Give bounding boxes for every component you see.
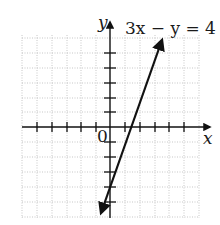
- x-axis-label: x: [203, 128, 213, 148]
- x-axis: [22, 122, 210, 132]
- equation-label: 3x − y = 4: [125, 18, 216, 38]
- origin-label: 0: [97, 126, 108, 146]
- coordinate-graph: y 3x − y = 4 x 0: [0, 0, 220, 225]
- y-axis-label: y: [97, 12, 108, 32]
